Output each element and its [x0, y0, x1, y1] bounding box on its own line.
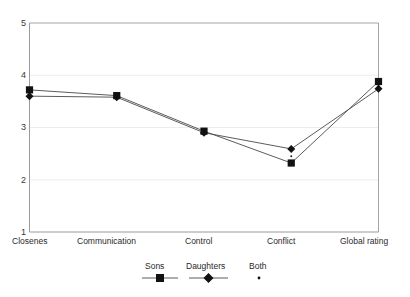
- square-marker-key: [156, 274, 164, 282]
- x-tick-label-global-rating: Global rating: [340, 236, 388, 246]
- line-chart: 5 4 3 2 1 Closenes Communication Control…: [0, 0, 410, 297]
- legend-keys: [0, 258, 410, 294]
- gridlines: [30, 75, 379, 180]
- datapoint-both-global-rating: [378, 84, 380, 86]
- x-tick-label-closenes: Closenes: [12, 236, 47, 246]
- datapoint-both-communication: [116, 96, 118, 98]
- datapoint-daughters-conflict: [287, 145, 295, 153]
- series-layer: [26, 78, 383, 167]
- series-line-daughters: [30, 89, 379, 149]
- x-tick-label-conflict: Conflict: [267, 236, 295, 246]
- datapoint-sons-conflict: [288, 159, 295, 166]
- x-tick-label-control: Control: [185, 236, 212, 246]
- datapoint-both-closenes: [29, 92, 31, 94]
- dot-marker-key: [258, 277, 261, 280]
- x-tick-label-communication: Communication: [77, 236, 136, 246]
- chart-legend: Sons Daughters Both: [0, 258, 410, 294]
- datapoint-sons-global-rating: [375, 78, 382, 85]
- datapoint-both-conflict: [290, 155, 292, 157]
- series-line-sons: [30, 82, 379, 164]
- diamond-marker-key: [204, 273, 214, 283]
- plot-area: [0, 0, 410, 297]
- datapoint-both-control: [203, 131, 205, 133]
